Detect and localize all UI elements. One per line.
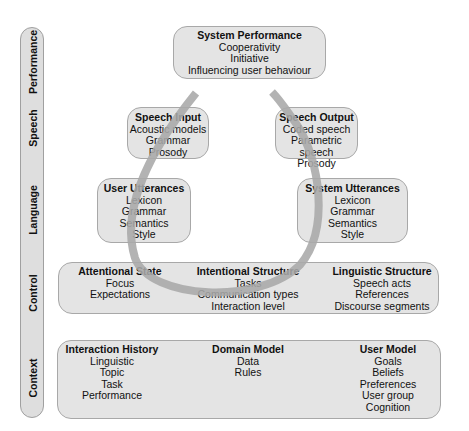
control-band: Attentional State Focus Expectations Int… xyxy=(58,262,439,314)
axis-label-context: Context xyxy=(27,358,39,397)
axis-label-language: Language xyxy=(27,185,39,235)
system-utterances-box: System Utterances Lexicon Grammar Semant… xyxy=(297,178,408,243)
box-item: Initiative xyxy=(174,53,325,65)
axis-label-performance: Performance xyxy=(27,30,39,94)
column-item: Beliefs xyxy=(348,367,428,379)
domain-model-column: Domain Model Data Rules xyxy=(203,344,293,379)
column-item: Expectations xyxy=(65,289,175,301)
column-item: Communication types xyxy=(187,289,309,301)
axis-label-control: Control xyxy=(27,274,39,311)
column-title: Linguistic Structure xyxy=(329,266,435,278)
context-band: Interaction History Linguistic Topic Tas… xyxy=(57,340,441,419)
intentional-structure-column: Intentional Structure Tasks Communicatio… xyxy=(187,266,309,312)
level-axis: Performance Speech Language Control Cont… xyxy=(20,27,44,418)
box-item: Style xyxy=(98,229,190,241)
column-item: Rules xyxy=(203,367,293,379)
column-item: Performance xyxy=(62,390,162,402)
box-item: Grammar xyxy=(128,135,208,147)
system-performance-box: System Performance Cooperativity Initiat… xyxy=(173,26,326,79)
box-item: Grammar xyxy=(98,206,190,218)
column-item: Topic xyxy=(62,367,162,379)
column-title: Intentional Structure xyxy=(187,266,309,278)
column-title: Interaction History xyxy=(62,344,162,356)
column-item: Interaction level xyxy=(187,301,309,313)
column-title: Domain Model xyxy=(203,344,293,356)
axis-label-speech: Speech xyxy=(27,109,39,146)
box-item: Influencing user behaviour xyxy=(174,65,325,77)
attentional-state-column: Attentional State Focus Expectations xyxy=(65,266,175,301)
column-item: References xyxy=(329,289,435,301)
linguistic-structure-column: Linguistic Structure Speech acts Referen… xyxy=(329,266,435,312)
user-utterances-box: User Utterances Lexicon Grammar Semantic… xyxy=(97,178,191,243)
speech-input-box: Speech Input Acoustic models Grammar Pro… xyxy=(127,107,209,159)
user-model-column: User Model Goals Beliefs Preferences Use… xyxy=(348,344,428,413)
column-item: Discourse segments xyxy=(329,301,435,313)
column-item: Cognition xyxy=(348,402,428,414)
box-item: Parametric speech xyxy=(276,135,357,158)
box-item: Prosody xyxy=(276,158,357,170)
column-title: User Model xyxy=(348,344,428,356)
interaction-history-column: Interaction History Linguistic Topic Tas… xyxy=(62,344,162,402)
speech-output-box: Speech Output Coded speech Parametric sp… xyxy=(275,107,358,159)
box-title: Speech Output xyxy=(276,112,357,124)
column-title: Attentional State xyxy=(65,266,175,278)
box-item: Style xyxy=(298,229,407,241)
box-title: System Utterances xyxy=(298,183,407,195)
box-item: Grammar xyxy=(298,206,407,218)
box-title: Speech Input xyxy=(128,112,208,124)
box-title: System Performance xyxy=(174,30,325,42)
box-item: Prosody xyxy=(128,147,208,159)
column-item: User group xyxy=(348,390,428,402)
box-title: User Utterances xyxy=(98,183,190,195)
